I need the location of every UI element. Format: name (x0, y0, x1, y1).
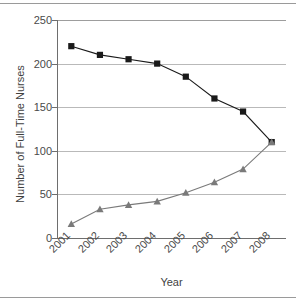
x-tick-label: 2004 (133, 230, 158, 255)
x-tick-label: 2007 (219, 230, 244, 255)
x-tick-label: 2003 (104, 230, 129, 255)
x-tick-label: 2001 (47, 230, 72, 255)
x-tick-label: 2008 (248, 230, 273, 255)
x-axis-title: Year (57, 276, 286, 288)
x-axis-tick-labels: 20012002200320042005200620072008 (0, 0, 296, 304)
x-tick-label: 2006 (190, 230, 215, 255)
x-tick-label: 2005 (162, 230, 187, 255)
x-tick-label: 2002 (76, 230, 101, 255)
chart-page: Number of Full-Time Nurses 0501001502002… (0, 0, 296, 304)
